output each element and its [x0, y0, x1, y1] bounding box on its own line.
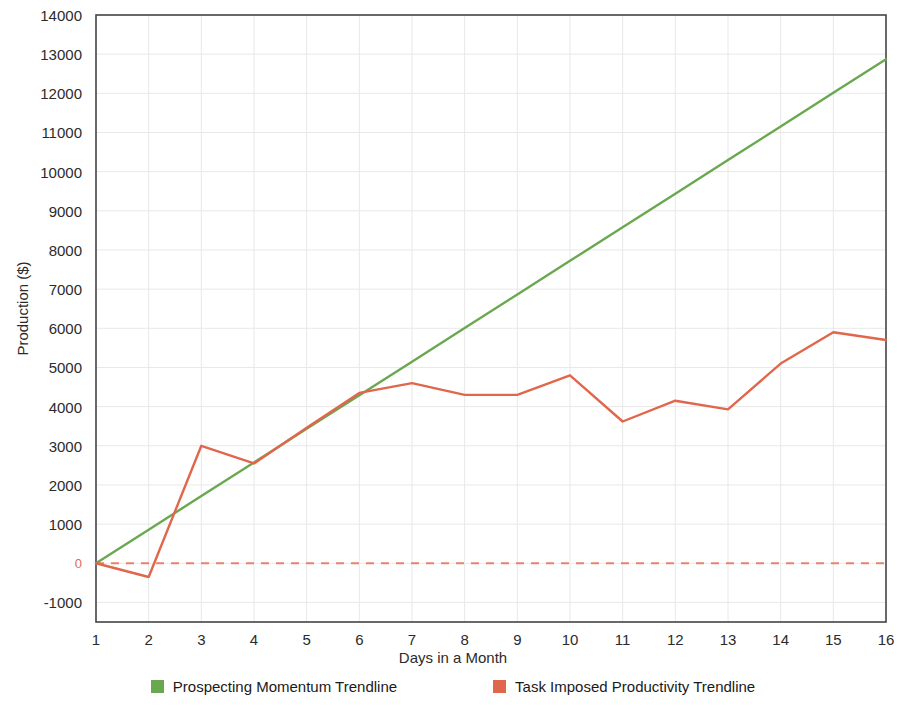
y-axis-tick-label: 14000: [0, 7, 82, 24]
y-axis-tick-label: 0: [0, 556, 82, 571]
y-axis-tick-label: 4000: [0, 398, 82, 415]
legend-item-label: Task Imposed Productivity Trendline: [515, 678, 755, 695]
x-axis-tick-label: 5: [302, 631, 310, 648]
x-axis-tick-label: 1: [92, 631, 100, 648]
y-axis-tick-label: 2000: [0, 476, 82, 493]
y-axis-tick-label: 3000: [0, 437, 82, 454]
y-axis-tick-label: 10000: [0, 163, 82, 180]
series-line-0: [96, 59, 886, 563]
y-axis-tick-label: 7000: [0, 281, 82, 298]
legend-item[interactable]: Prospecting Momentum Trendline: [151, 678, 397, 695]
y-axis-tick-label: -1000: [0, 594, 82, 611]
x-axis-tick-label: 13: [720, 631, 737, 648]
x-axis-tick-label: 8: [460, 631, 468, 648]
legend-item[interactable]: Task Imposed Productivity Trendline: [493, 678, 755, 695]
x-axis-tick-label: 11: [615, 631, 631, 648]
x-axis-tick-label: 6: [355, 631, 363, 648]
y-axis-tick-label: 6000: [0, 320, 82, 337]
chart-container: Production ($) 1400013000120001100010000…: [0, 0, 906, 709]
y-axis-tick-label: 5000: [0, 359, 82, 376]
y-axis-tick-label: 9000: [0, 202, 82, 219]
x-axis-tick-label: 16: [878, 631, 895, 648]
y-axis-tick-label: 8000: [0, 241, 82, 258]
plot-area: [0, 0, 906, 709]
x-axis-tick-label: 14: [772, 631, 789, 648]
series-line-1: [96, 332, 886, 577]
x-axis-tick-label: 4: [250, 631, 258, 648]
y-axis-tick-label: 13000: [0, 46, 82, 63]
x-axis-tick-label: 3: [197, 631, 205, 648]
y-axis-tick-label: 1000: [0, 516, 82, 533]
x-axis-tick-label: 2: [144, 631, 152, 648]
legend-swatch-icon: [151, 680, 164, 693]
x-axis-tick-label: 9: [513, 631, 521, 648]
y-axis-tick-label: 11000: [0, 124, 82, 141]
x-axis-tick-label: 12: [667, 631, 684, 648]
plot-frame: [96, 15, 886, 622]
legend-swatch-icon: [493, 680, 506, 693]
x-axis-tick-label: 7: [408, 631, 416, 648]
x-axis-tick-label: 15: [825, 631, 842, 648]
legend-item-label: Prospecting Momentum Trendline: [173, 678, 397, 695]
chart-legend: Prospecting Momentum TrendlineTask Impos…: [0, 678, 906, 695]
x-axis-title-label: Days in a Month: [0, 649, 906, 666]
x-axis-tick-label: 10: [562, 631, 579, 648]
y-axis-tick-label: 12000: [0, 85, 82, 102]
